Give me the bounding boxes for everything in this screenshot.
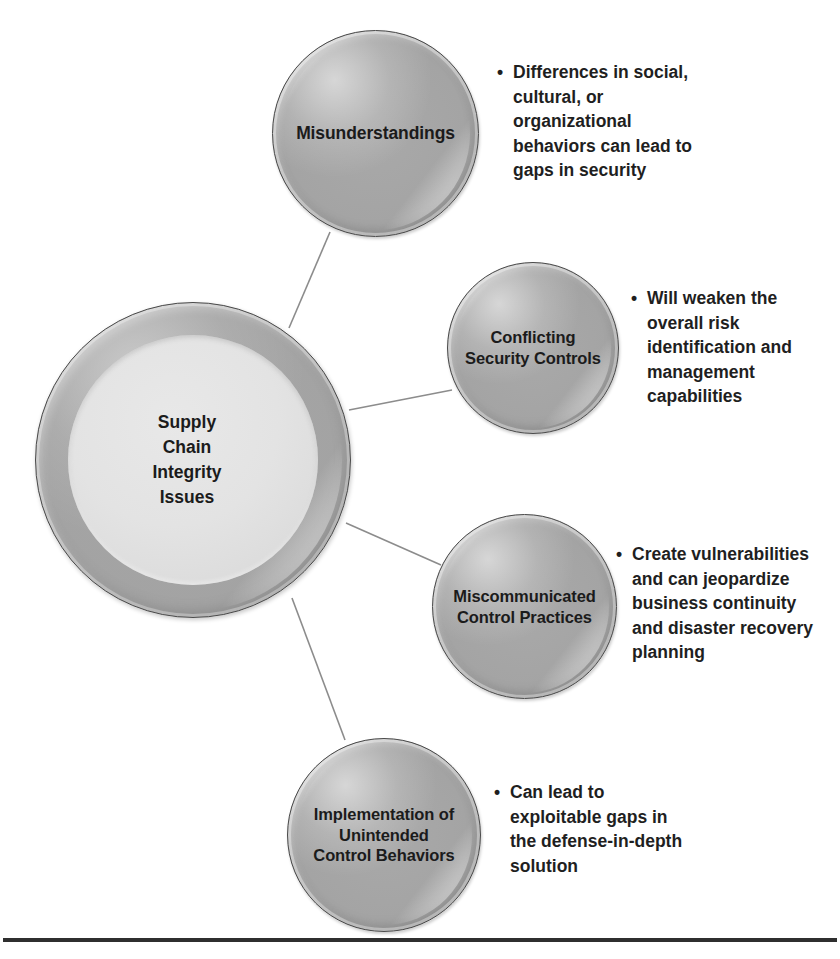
bullet-line: identification and: [647, 337, 792, 357]
center-node-inner-circle: Supply Chain Integrity Issues: [68, 335, 318, 585]
bullet-dot-icon: •: [497, 60, 503, 85]
bullet-item: • Can lead to exploitable gaps in the de…: [493, 780, 708, 878]
bullet-dot-icon: •: [494, 780, 500, 805]
connector-center-to-implementation-unintended-control-behaviors: [292, 598, 345, 740]
node-misunderstandings[interactable]: Misunderstandings: [272, 30, 479, 237]
bullet-line: cultural, or: [513, 87, 603, 107]
bullet-line: overall risk: [647, 313, 739, 333]
center-label-line: Chain: [152, 435, 221, 460]
bullet-line: exploitable gaps in: [510, 807, 668, 827]
bottom-divider: [3, 938, 837, 942]
bullet-dot-icon: •: [631, 286, 637, 311]
bullet-line: Differences in social,: [513, 62, 688, 82]
bullet-dot-icon: •: [616, 542, 622, 567]
node-label-line: Unintended: [313, 825, 454, 846]
center-label-line: Issues: [152, 485, 221, 510]
center-node-supply-chain-integrity-issues[interactable]: Supply Chain Integrity Issues: [35, 302, 351, 618]
bullet-line: capabilities: [647, 386, 742, 406]
bullet-item: • Create vulnerabilities and can jeopard…: [615, 542, 830, 665]
connector-center-to-conflicting-security-controls: [349, 390, 452, 410]
node-label-line: Control Behaviors: [313, 845, 454, 866]
bullet-line: and disaster recovery: [632, 618, 813, 638]
node-label-line: Implementation of: [313, 804, 454, 825]
bullet-line: solution: [510, 856, 578, 876]
node-miscommunicated-control-practices[interactable]: Miscommunicated Control Practices: [432, 514, 617, 699]
bullets-misunderstandings: • Differences in social, cultural, or or…: [496, 60, 696, 183]
center-node-label: Supply Chain Integrity Issues: [152, 410, 221, 511]
node-label-line: Control Practices: [453, 607, 595, 628]
node-implementation-unintended-control-behaviors-label: Implementation of Unintended Control Beh…: [305, 804, 462, 866]
node-label-line: Conflicting: [465, 327, 601, 348]
center-label-line: Integrity: [152, 460, 221, 485]
node-label-line: Misunderstandings: [296, 122, 455, 144]
node-implementation-unintended-control-behaviors[interactable]: Implementation of Unintended Control Beh…: [287, 738, 481, 932]
node-conflicting-security-controls[interactable]: Conflicting Security Controls: [447, 262, 619, 434]
node-label-line: Miscommunicated: [453, 586, 595, 607]
bullet-line: management: [647, 362, 755, 382]
bullet-line: Create vulnerabilities: [632, 544, 809, 564]
connector-center-to-misunderstandings: [289, 232, 330, 328]
bullet-item: • Will weaken the overall risk identific…: [630, 286, 830, 409]
bullet-line: business continuity: [632, 593, 796, 613]
bullet-line: Can lead to: [510, 782, 604, 802]
node-misunderstandings-label: Misunderstandings: [288, 122, 463, 144]
bullet-line: Will weaken the: [647, 288, 777, 308]
bullet-line: organizational: [513, 111, 632, 131]
node-miscommunicated-control-practices-label: Miscommunicated Control Practices: [445, 586, 603, 628]
bullets-conflicting-security-controls: • Will weaken the overall risk identific…: [630, 286, 830, 409]
diagram-canvas: Supply Chain Integrity Issues Misunderst…: [0, 0, 840, 959]
node-label-line: Security Controls: [465, 348, 601, 369]
bullets-miscommunicated-control-practices: • Create vulnerabilities and can jeopard…: [615, 542, 830, 665]
bullet-line: the defense-in-depth: [510, 831, 682, 851]
bullets-implementation-unintended-control-behaviors: • Can lead to exploitable gaps in the de…: [493, 780, 708, 878]
node-conflicting-security-controls-label: Conflicting Security Controls: [457, 327, 609, 369]
center-label-line: Supply: [152, 410, 221, 435]
bullet-line: and can jeopardize: [632, 569, 790, 589]
bullet-line: behaviors can lead to: [513, 136, 692, 156]
bullet-item: • Differences in social, cultural, or or…: [496, 60, 696, 183]
connector-center-to-miscommunicated-control-practices: [346, 523, 441, 565]
bullet-line: planning: [632, 642, 705, 662]
bullet-line: gaps in security: [513, 160, 646, 180]
